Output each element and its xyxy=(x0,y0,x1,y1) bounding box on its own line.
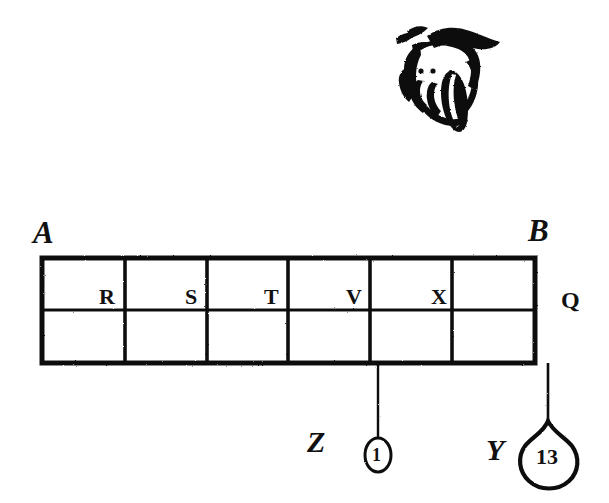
cell-label-r: R xyxy=(99,286,115,308)
cell-label-s: S xyxy=(185,286,197,308)
drop-z-value: 1 xyxy=(372,446,381,464)
cell-label-v: V xyxy=(346,286,362,308)
cell-label-t: T xyxy=(264,286,279,308)
label-side-q: Q xyxy=(561,288,580,312)
label-z: Z xyxy=(307,427,325,457)
label-y: Y xyxy=(486,435,504,465)
engraving-figure xyxy=(0,0,609,503)
drop-y xyxy=(520,363,577,489)
pointing-hand-icon xyxy=(396,26,500,132)
table-grid xyxy=(42,258,535,363)
drop-y-value: 13 xyxy=(536,446,558,468)
label-corner-b: B xyxy=(528,215,549,246)
label-corner-a: A xyxy=(33,217,54,248)
cell-label-x: X xyxy=(431,286,447,308)
